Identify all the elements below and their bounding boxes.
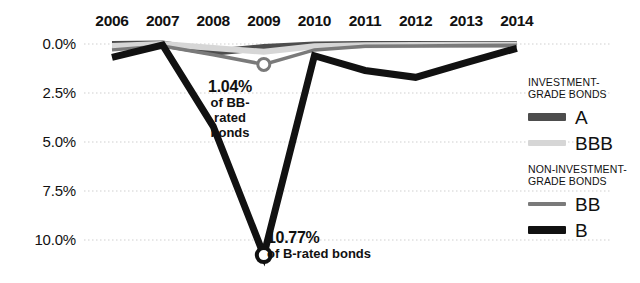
x-axis-label-2006: 2006 (84, 12, 140, 30)
legend-swatch-BB (528, 202, 566, 206)
annotation-b-2009: 10.77% of B-rated bonds (267, 229, 427, 261)
x-axis-label-2013: 2013 (438, 12, 494, 30)
legend-item-A[interactable]: A (528, 104, 640, 130)
legend-item-BB[interactable]: BB (528, 191, 640, 217)
x-axis-label-2009: 2009 (236, 12, 292, 30)
annotation-bb-text-line-1: of BB- (188, 95, 272, 110)
y-axis-label-3: 7.5% (0, 182, 76, 199)
y-axis-label-2: 5.0% (0, 133, 76, 150)
x-axis-label-2012: 2012 (388, 12, 444, 30)
y-axis-label-0: 0.0% (0, 35, 76, 52)
y-axis-label-1: 2.5% (0, 84, 76, 101)
legend-group-heading-1: NON-INVESTMENT-GRADE BONDS (528, 163, 640, 187)
legend-label-BB: BB (575, 195, 600, 214)
legend-swatch-B (528, 226, 566, 234)
legend-item-B[interactable]: B (528, 217, 640, 243)
legend-swatch-BBB (528, 140, 566, 146)
annotation-bb-2009: 1.04% of BB- rated bonds (188, 78, 272, 140)
x-axis-label-2011: 2011 (337, 12, 393, 30)
legend-item-BBB[interactable]: BBB (528, 130, 640, 156)
x-axis-label-2007: 2007 (135, 12, 191, 30)
legend-heading-line: INVESTMENT- (528, 76, 640, 88)
bond-default-rate-chart: 0.0%2.5%5.0%7.5%10.0% 200620072008200920… (0, 0, 640, 283)
chart-legend: INVESTMENT-GRADE BONDSABBBNON-INVESTMENT… (528, 76, 640, 243)
legend-spacer (528, 156, 640, 163)
annotation-bb-text-line-2: rated (188, 110, 272, 125)
annotation-bb-text-line-3: bonds (188, 125, 272, 140)
legend-label-A: A (575, 108, 588, 127)
y-axis-label-4: 10.0% (0, 231, 76, 248)
series-line-B (112, 45, 517, 255)
annotation-b-text: of B-rated bonds (267, 246, 427, 261)
legend-heading-line: GRADE BONDS (528, 88, 640, 100)
x-axis-label-2008: 2008 (185, 12, 241, 30)
x-axis-label-2010: 2010 (286, 12, 342, 30)
legend-label-BBB: BBB (575, 134, 613, 153)
marker-bb-2009 (258, 58, 270, 70)
legend-heading-line: NON-INVESTMENT- (528, 163, 640, 175)
legend-label-B: B (575, 221, 588, 240)
legend-swatch-A (528, 113, 566, 121)
legend-heading-line: GRADE BONDS (528, 175, 640, 187)
legend-group-heading-0: INVESTMENT-GRADE BONDS (528, 76, 640, 100)
annotation-bb-value: 1.04% (188, 78, 272, 95)
annotation-b-value: 10.77% (267, 229, 427, 246)
x-axis-label-2014: 2014 (489, 12, 545, 30)
